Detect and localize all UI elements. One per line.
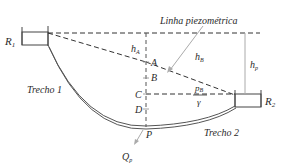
reservoir-r1 xyxy=(22,26,48,46)
point-d-label: D xyxy=(134,104,143,115)
fraction-denominator: γ xyxy=(197,97,201,107)
pressure-head-fraction: pB γ xyxy=(193,83,207,107)
piezometric-line-label: Linha piezométrica xyxy=(159,15,238,26)
piezometric-line-2 xyxy=(146,62,235,95)
ha-label: hA xyxy=(131,43,140,55)
hb-label: hB xyxy=(195,51,204,63)
r2-label: R2 xyxy=(264,95,276,109)
r1-label: R1 xyxy=(4,35,15,49)
point-b-label: B xyxy=(151,72,157,83)
fraction-numerator: pB xyxy=(194,83,204,93)
point-c-label: C xyxy=(135,89,142,100)
hydraulic-diagram: R1 R2 Linha piezométrica hA hB hp A B C … xyxy=(0,0,283,167)
flow-arrowhead-icon xyxy=(134,139,139,145)
trecho-2-label: Trecho 2 xyxy=(204,127,239,138)
trecho-1-label: Trecho 1 xyxy=(27,84,62,95)
point-p-label: P xyxy=(145,129,152,140)
pipe xyxy=(48,45,236,129)
flow-qp-label: Qp xyxy=(122,151,132,163)
point-a-label: A xyxy=(150,57,158,68)
reservoir-r2 xyxy=(235,90,261,107)
hp-label: hp xyxy=(250,59,258,71)
